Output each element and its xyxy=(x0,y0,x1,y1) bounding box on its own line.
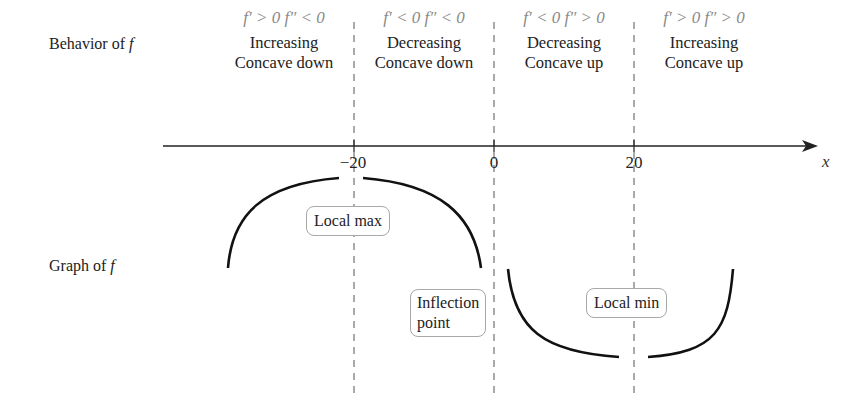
callout-local-max: Local max xyxy=(306,206,390,236)
interval-1-description: Increasing Concave down xyxy=(214,33,354,73)
graph-label-text: Graph of xyxy=(49,257,110,274)
callout-inflection-point: Inflection point xyxy=(410,289,486,337)
interval-4-condition: f′ > 0 f″ > 0 xyxy=(634,8,774,28)
interval-4-line2: Concave up xyxy=(634,53,774,73)
interval-3-condition: f′ < 0 f″ > 0 xyxy=(494,8,634,28)
tick-label-20: 20 xyxy=(614,153,654,173)
behavior-row-label: Behavior of f xyxy=(49,35,133,53)
interval-1-condition: f′ > 0 f″ < 0 xyxy=(214,8,354,28)
tick-label-0: 0 xyxy=(474,153,514,173)
interval-3-description: Decreasing Concave up xyxy=(494,33,634,73)
tick-label-neg20: −20 xyxy=(333,153,373,173)
interval-1-line2: Concave down xyxy=(214,53,354,73)
interval-2-condition: f′ < 0 f″ < 0 xyxy=(354,8,494,28)
interval-4-description: Increasing Concave up xyxy=(634,33,774,73)
x-axis-label: x xyxy=(822,152,830,172)
interval-4-line1: Increasing xyxy=(634,33,774,53)
inflection-line2: point xyxy=(417,313,479,333)
interval-2-line2: Concave down xyxy=(354,53,494,73)
graph-row-label: Graph of f xyxy=(49,257,115,275)
interval-3-line2: Concave up xyxy=(494,53,634,73)
interval-2-line1: Decreasing xyxy=(354,33,494,53)
callout-local-min: Local min xyxy=(586,288,667,318)
interval-2-description: Decreasing Concave down xyxy=(354,33,494,73)
behavior-label-text: Behavior of xyxy=(49,35,129,52)
interval-3-line1: Decreasing xyxy=(494,33,634,53)
graph-label-var: f xyxy=(110,257,114,274)
inflection-line1: Inflection xyxy=(417,293,479,313)
interval-1-line1: Increasing xyxy=(214,33,354,53)
behavior-label-var: f xyxy=(129,35,133,52)
